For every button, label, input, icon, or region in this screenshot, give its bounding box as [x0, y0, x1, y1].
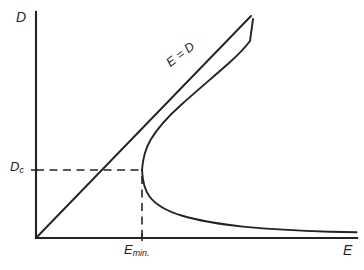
- plot-canvas: [0, 0, 364, 270]
- plot-figure: D E Dc Emin. E = D: [0, 0, 364, 270]
- dc-tick-label: Dc: [10, 160, 24, 175]
- emin-base: E: [124, 242, 133, 257]
- identity-line-e-equals-d: [36, 16, 251, 238]
- axes-group: [36, 12, 357, 238]
- upper-branch-curve: [142, 19, 253, 170]
- lower-branch-curve: [142, 170, 357, 232]
- emin-tick-label: Emin.: [124, 243, 149, 258]
- emin-subscript: min.: [133, 248, 150, 258]
- y-axis-label: D: [16, 10, 26, 24]
- dc-subscript: c: [19, 165, 23, 175]
- tick-marks-group: [31, 170, 142, 241]
- x-axis-label: E: [343, 243, 352, 257]
- dc-base: D: [10, 159, 19, 174]
- guide-lines-group: [36, 170, 142, 238]
